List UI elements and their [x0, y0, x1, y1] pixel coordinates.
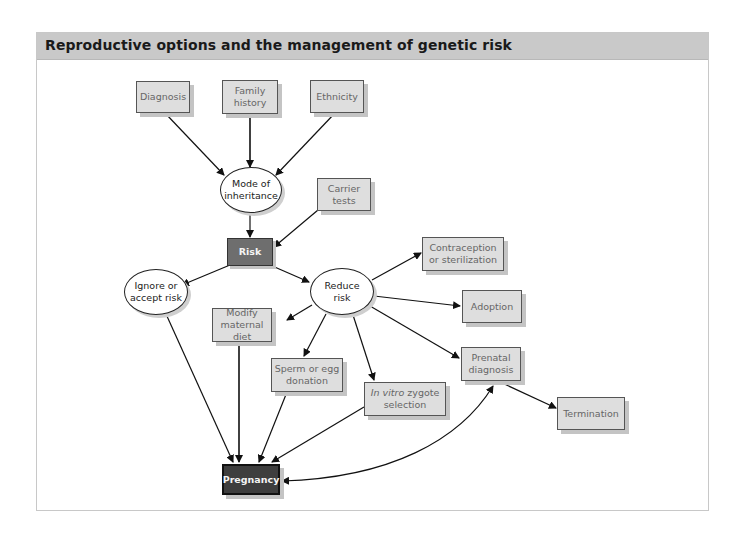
node-label: Risk	[239, 246, 262, 258]
node-ignore-accept-risk: Ignore or accept risk	[124, 269, 188, 315]
edge-risk-ignore	[182, 265, 230, 285]
zygote-text: zygote	[404, 387, 439, 398]
node-risk: Risk	[227, 238, 273, 266]
node-pregnancy: Pregnancy	[222, 464, 280, 495]
node-label: Reduce risk	[324, 280, 359, 304]
node-label: Adoption	[471, 301, 513, 313]
edge-risk-reduce	[270, 265, 309, 282]
edge-diagnosis-mode	[165, 113, 224, 175]
node-label: Mode of inheritance	[224, 178, 278, 202]
node-label: Family history	[234, 85, 267, 109]
edge-reduce-diet	[287, 305, 312, 320]
edge-reduce-prenatal	[370, 306, 459, 358]
edge-reduce-adoption	[374, 296, 460, 306]
edge-invitro-pregnancy	[272, 407, 364, 462]
edge-reduce-contraception	[372, 253, 421, 280]
node-label: Ethnicity	[316, 91, 358, 103]
node-adoption: Adoption	[462, 290, 522, 323]
edge-reduce-sperm	[304, 314, 326, 356]
node-label: In vitro zygoteselection	[371, 387, 440, 411]
node-termination: Termination	[557, 397, 625, 430]
node-sperm-egg-donation: Sperm or egg donation	[271, 358, 343, 392]
in-vitro-italic: In vitro	[371, 387, 405, 398]
node-in-vitro-zygote-selection: In vitro zygoteselection	[364, 382, 446, 416]
node-label: Diagnosis	[140, 91, 186, 103]
node-label: Prenatal diagnosis	[469, 352, 514, 376]
node-carrier-tests: Carrier tests	[317, 178, 371, 211]
edge-prenatal-termination	[500, 382, 556, 408]
edge-carrier-risk	[274, 210, 318, 247]
node-diagnosis: Diagnosis	[136, 81, 190, 113]
node-label: Pregnancy	[223, 474, 280, 486]
node-modify-maternal-diet: Modify maternal diet	[212, 308, 272, 342]
node-prenatal-diagnosis: Prenatal diagnosis	[461, 347, 521, 381]
selection-text: selection	[384, 399, 427, 410]
node-contraception: Contraception or sterilization	[422, 237, 504, 271]
node-label: Termination	[563, 408, 619, 420]
node-reduce-risk: Reduce risk	[310, 268, 374, 315]
node-mode-of-inheritance: Mode of inheritance	[220, 167, 282, 213]
node-label: Contraception or sterilization	[429, 242, 497, 266]
edge-sperm-pregnancy	[259, 392, 287, 462]
edge-ethnicity-mode	[276, 113, 335, 175]
node-family-history: Family history	[222, 80, 278, 114]
node-ethnicity: Ethnicity	[310, 80, 364, 113]
edges-layer	[0, 0, 740, 534]
node-label: Ignore or accept risk	[130, 280, 182, 304]
node-label: Modify maternal diet	[213, 307, 271, 343]
node-label: Sperm or egg donation	[275, 363, 340, 387]
node-label: Carrier tests	[328, 183, 361, 207]
edge-reduce-invitro	[353, 315, 374, 380]
